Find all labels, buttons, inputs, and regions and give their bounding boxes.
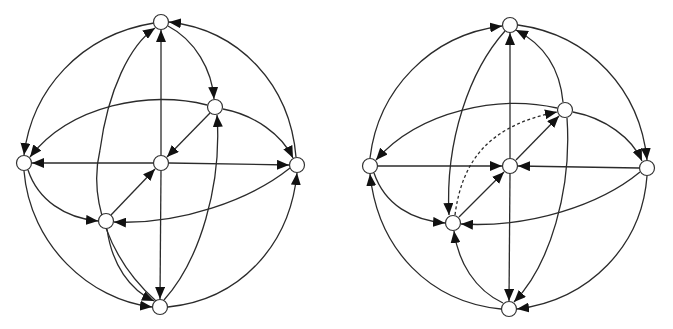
edge-UR-R: [223, 109, 293, 158]
edge-LL-B: [107, 229, 154, 301]
edge-LL-C: [111, 169, 155, 215]
edge-L-LL: [374, 173, 445, 223]
edge-B-UR: [164, 115, 218, 300]
node-R: [290, 158, 305, 173]
node-UR: [208, 100, 223, 115]
edge-LL-C: [459, 172, 504, 217]
edge-R-C: [518, 166, 639, 168]
node-C: [503, 159, 518, 174]
edge-C-B: [160, 171, 161, 299]
edge-UR-L: [376, 104, 557, 160]
node-B: [153, 300, 168, 315]
node-L: [17, 156, 32, 171]
left-graph: [17, 15, 305, 315]
right-graph: [363, 18, 655, 317]
edge-UR-L: [30, 99, 207, 157]
edge-R-B: [517, 176, 647, 309]
node-LL: [446, 216, 461, 231]
edge-L-LL: [28, 170, 98, 221]
edge-T-L: [24, 23, 154, 155]
node-T: [154, 15, 169, 30]
node-C: [154, 156, 169, 171]
edge-T-LL: [449, 31, 505, 215]
edge-C-R: [169, 163, 289, 165]
node-R: [640, 161, 655, 176]
node-L: [363, 159, 378, 174]
node-LL: [99, 214, 114, 229]
edge-UR-B: [514, 118, 568, 302]
node-B: [502, 302, 517, 317]
edge-UR-C: [167, 113, 210, 157]
edge-UR-T: [516, 30, 563, 102]
edge-B-LL: [454, 231, 503, 303]
edge-UR-R: [573, 112, 642, 161]
edge-R-LL: [114, 168, 290, 222]
node-T: [503, 18, 518, 33]
edge-B-T-upper: [100, 28, 155, 150]
edge-T-UR: [168, 26, 214, 99]
edge-B-R: [168, 173, 297, 307]
edge-C-B: [509, 174, 510, 301]
edge-L-T: [370, 26, 502, 158]
node-UR: [558, 103, 573, 118]
diagram-canvas: [0, 0, 673, 329]
edge-R-LL: [461, 172, 640, 224]
